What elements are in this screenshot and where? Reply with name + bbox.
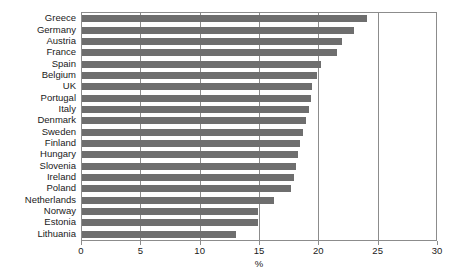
category-label: Poland — [0, 184, 76, 192]
category-label: Finland — [0, 139, 76, 147]
x-tick-label: 25 — [358, 245, 398, 256]
x-tick-label: 15 — [239, 245, 279, 256]
x-tick-label: 5 — [120, 245, 160, 256]
category-label: Portugal — [0, 94, 76, 102]
category-label: Spain — [0, 60, 76, 68]
category-label: Estonia — [0, 218, 76, 226]
x-tick-label: 30 — [417, 245, 453, 256]
category-label: Norway — [0, 207, 76, 215]
category-label: Hungary — [0, 150, 76, 158]
category-label: Germany — [0, 26, 76, 34]
category-label: UK — [0, 82, 76, 90]
x-tick-label: 20 — [298, 245, 338, 256]
x-tick-label: 10 — [180, 245, 220, 256]
category-label: Lithuania — [0, 230, 76, 238]
category-label: Sweden — [0, 128, 76, 136]
category-label: Belgium — [0, 71, 76, 79]
bar-chart: GreeceGermanyAustriaFranceSpainBelgiumUK… — [0, 0, 453, 279]
category-label: Ireland — [0, 173, 76, 181]
category-label: France — [0, 48, 76, 56]
category-label: Italy — [0, 105, 76, 113]
category-label: Denmark — [0, 116, 76, 124]
category-label: Greece — [0, 14, 76, 22]
category-labels: GreeceGermanyAustriaFranceSpainBelgiumUK… — [0, 13, 453, 240]
x-tick-label: 0 — [61, 245, 101, 256]
category-label: Netherlands — [0, 196, 76, 204]
category-label: Austria — [0, 37, 76, 45]
category-label: Slovenia — [0, 162, 76, 170]
x-axis-title: % — [239, 258, 279, 269]
